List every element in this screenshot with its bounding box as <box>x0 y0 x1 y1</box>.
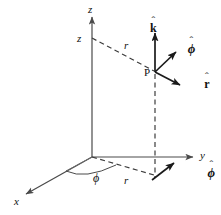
cylindrical-coordinates-figure: z z y x r r ϕ P ˆ k ˆ ϕ ˆ r ˆ ϕ <box>0 0 221 215</box>
r-hat-label: ˆ r <box>204 74 209 90</box>
figure-canvas <box>0 0 221 215</box>
phi-hat-upper-label: ˆ ϕ <box>188 38 196 54</box>
point-p-label: P <box>144 67 150 78</box>
lower-radius-label: r <box>124 175 128 186</box>
phi-hat-upper-vector <box>155 52 176 72</box>
z-axis-label: z <box>88 4 92 15</box>
k-hat-label: ˆ k <box>150 18 157 34</box>
x-axis-label: x <box>14 196 19 207</box>
r-hat-base: r <box>204 79 209 90</box>
y-axis-label: y <box>200 150 205 161</box>
upper-radius-label: r <box>124 40 128 51</box>
phi-hat-lower-base: ϕ <box>208 167 216 178</box>
phi-angle-reference-line <box>66 157 92 171</box>
lower-radius-dashed-line <box>92 157 154 175</box>
z-height-label: z <box>77 33 81 44</box>
phi-angle-label: ϕ <box>93 172 99 184</box>
phi-hat-lower-label: ˆ ϕ <box>208 162 216 178</box>
phi-hat-upper-base: ϕ <box>188 43 196 54</box>
k-hat-base: k <box>150 23 157 34</box>
r-hat-vector <box>155 72 180 85</box>
